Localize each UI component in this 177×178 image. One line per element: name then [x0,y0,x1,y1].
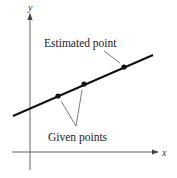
given-point-2 [81,81,86,86]
given-point-1 [55,93,60,98]
linear-extrapolation-diagram: y x Estimated point Given points [0,0,177,178]
estimated-leader-line [104,51,120,63]
given-leader-line-1 [61,101,76,126]
given-points-label: Given points [48,131,108,144]
estimated-point-label: Estimated point [44,37,117,50]
y-axis-label: y [27,2,33,13]
estimated-point [121,64,126,69]
x-axis-label: x [161,147,167,158]
given-leader-line-2 [76,90,82,126]
